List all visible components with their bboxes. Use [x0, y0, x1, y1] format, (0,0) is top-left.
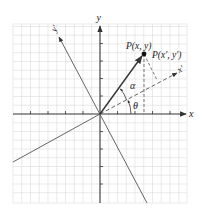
y-axis-label: y	[96, 12, 102, 23]
rotation-of-axes-diagram: x y x′ y′ P(x, y) P(x′, y′) α	[0, 0, 199, 214]
alpha-label: α	[130, 80, 136, 91]
theta-arc	[128, 101, 131, 115]
y-prime-axis	[59, 37, 147, 203]
x-axis-label: x	[188, 108, 194, 119]
theta-label: θ	[133, 100, 138, 111]
point-label-original: P(x, y)	[125, 41, 151, 52]
point-label-rotated: P(x′, y′)	[151, 50, 181, 61]
alpha-arc	[121, 89, 127, 100]
point-p	[142, 52, 147, 57]
